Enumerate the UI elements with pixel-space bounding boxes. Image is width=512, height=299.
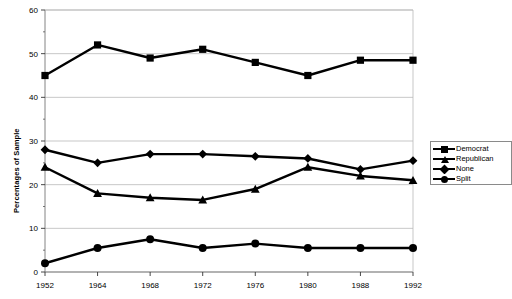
svg-text:0: 0 [34,268,39,277]
svg-text:1972: 1972 [194,281,212,290]
data-point [303,154,312,163]
data-point [356,244,364,252]
gridlines [45,10,413,272]
data-point [94,41,101,48]
chart-legend: Democrat Republican None Split [430,141,512,185]
svg-text:1964: 1964 [89,281,107,290]
data-point [146,150,155,159]
data-point [41,145,50,154]
svg-text:1992: 1992 [404,281,422,290]
legend-marker-diamond-icon [433,164,455,174]
svg-text:60: 60 [29,6,38,15]
legend-marker-square-icon [433,144,455,154]
y-axis-ticks: 0102030405060 [29,6,45,277]
data-point [41,72,48,79]
data-point [93,158,102,167]
data-point [147,54,154,61]
data-point [41,163,50,171]
data-point [252,59,259,66]
data-point [357,57,364,64]
data-point [409,244,417,252]
legend-label: None [456,164,474,174]
svg-text:1980: 1980 [299,281,317,290]
legend-item-split: Split [433,174,511,184]
svg-text:50: 50 [29,50,38,59]
legend-item-republican: Republican [433,154,511,164]
svg-text:1952: 1952 [36,281,54,290]
data-point [41,259,49,267]
legend-item-democrat: Democrat [433,144,511,154]
svg-text:1976: 1976 [246,281,264,290]
legend-label: Split [456,174,471,184]
data-point [199,244,207,252]
series-democrat [41,41,416,79]
svg-text:1988: 1988 [352,281,370,290]
data-point [251,152,260,161]
svg-text:20: 20 [29,181,38,190]
data-point [198,150,207,159]
series-none [41,145,418,173]
data-point [94,244,102,252]
legend-marker-circle-icon [433,174,455,184]
legend-label: Democrat [456,144,489,154]
data-point [251,240,259,248]
svg-text:40: 40 [29,93,38,102]
legend-item-none: None [433,164,511,174]
svg-text:10: 10 [29,224,38,233]
data-point [146,235,154,243]
svg-text:1968: 1968 [141,281,159,290]
data-point [409,57,416,64]
legend-marker-triangle-icon [433,154,455,164]
series-split [41,235,417,267]
data-point [199,46,206,53]
data-point [304,244,312,252]
x-axis-ticks: 19521964196819721976198019881992 [36,272,422,290]
data-series-layer [41,41,418,267]
data-point [356,165,365,174]
data-point [304,72,311,79]
data-point [409,156,418,165]
legend-label: Republican [456,154,494,164]
svg-text:30: 30 [29,137,38,146]
